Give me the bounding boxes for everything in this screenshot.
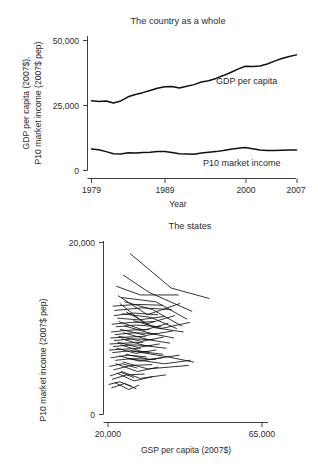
country-chart-svg: The country as a whole GDP per capita (2…: [0, 0, 318, 212]
y-tick-label-states-20000: 20,000: [69, 238, 96, 248]
x-axis-label-country: Year: [169, 199, 187, 209]
y-tick-label-50000: 50,000: [53, 36, 80, 46]
state-trajectory-line: [117, 286, 179, 295]
axes-states: [104, 241, 269, 423]
x-axis-label-states: GSP per capita (2007$): [141, 445, 231, 455]
series-annotation-p10: P10 market income: [203, 158, 281, 168]
chart-panel-country: The country as a whole GDP per capita (2…: [0, 0, 318, 212]
states-data-lines: [109, 254, 209, 390]
chart-title-states: The states: [169, 221, 212, 231]
x-tick-label-states-65000: 65,000: [249, 429, 276, 439]
y-axis-label-country-line2: P10 market income (2007$ pep): [33, 41, 43, 164]
states-chart-svg: The states P10 market income (2007$ pep)…: [0, 212, 318, 469]
state-trajectory-line: [118, 316, 165, 319]
series-line-p10-market-income: [92, 147, 297, 154]
chart-panel-states: The states P10 market income (2007$ pep)…: [0, 212, 318, 469]
y-tick-label-25000: 25,000: [53, 101, 80, 111]
x-tick-label-1979: 1979: [82, 185, 101, 195]
y-ticks-states: 20,000 0: [69, 238, 104, 420]
y-tick-label-0: 0: [74, 166, 79, 176]
y-axis-label-country: GDP per capita (2007$), P10 market incom…: [21, 41, 43, 164]
x-tick-label-2007: 2007: [286, 185, 305, 195]
figure-container: The country as a whole GDP per capita (2…: [0, 0, 318, 469]
state-trajectory-line: [115, 308, 171, 311]
country-data-lines: [92, 55, 297, 154]
x-ticks-country: 1979 1989 2000 2007: [82, 179, 306, 196]
y-axis-label-country-line1: GDP per capita (2007$),: [21, 57, 31, 150]
x-tick-label-1989: 1989: [155, 185, 174, 195]
y-ticks-country: 50,000 25,000 0: [53, 36, 88, 176]
x-tick-label-2000: 2000: [236, 185, 255, 195]
chart-title-country: The country as a whole: [131, 16, 226, 26]
x-tick-label-states-20000: 20,000: [95, 429, 122, 439]
x-ticks-states: 20,000 65,000: [95, 423, 276, 440]
state-trajectory-line: [130, 254, 209, 299]
y-axis-label-states: P10 market income (2007$ pep): [38, 298, 48, 421]
series-annotation-gdp: GDP per capita: [216, 76, 277, 86]
y-tick-label-states-0: 0: [90, 410, 95, 420]
